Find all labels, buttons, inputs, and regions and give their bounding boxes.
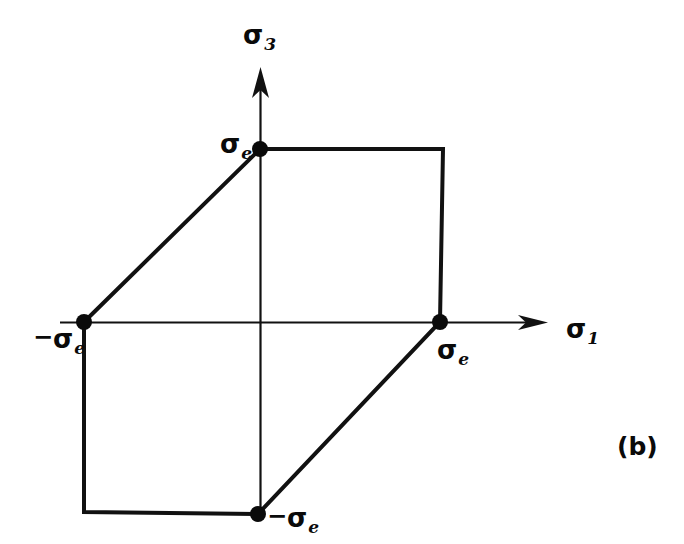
panel-caption: (b): [617, 434, 658, 459]
sigma-glyph: σ: [53, 324, 73, 354]
vertex-subscript: e: [308, 517, 319, 537]
vertex-dot-right: [432, 314, 448, 330]
vertex-subscript: e: [74, 338, 85, 358]
vertex-label-bottom: −σe: [267, 505, 318, 531]
vertex-dot-top: [252, 141, 268, 157]
sigma-glyph: σ: [243, 20, 263, 50]
vertex-dot-bottom: [250, 506, 266, 522]
sigma-glyph: σ: [287, 503, 307, 533]
figure-container: σ3 σ1 σe −σe σe −σe (b): [0, 0, 684, 544]
vertex-subscript: e: [458, 349, 469, 369]
sigma-glyph: σ: [566, 314, 586, 344]
axis-subscript: 1: [587, 328, 599, 348]
tresca-hexagon-path: [84, 149, 443, 514]
y-axis-label: σ3: [243, 22, 275, 48]
vertex-label-right: σe: [437, 337, 468, 363]
minus-sign: −: [33, 323, 53, 351]
vertex-label-top: σe: [220, 131, 251, 157]
vertex-label-left: −σe: [33, 326, 84, 352]
vertex-subscript: e: [241, 143, 252, 163]
x-axis-label: σ1: [566, 316, 598, 342]
sigma-glyph: σ: [220, 129, 240, 159]
minus-sign: −: [267, 502, 287, 530]
axis-subscript: 3: [264, 34, 276, 54]
yield-locus-plot: [0, 0, 684, 544]
sigma-glyph: σ: [437, 335, 457, 365]
